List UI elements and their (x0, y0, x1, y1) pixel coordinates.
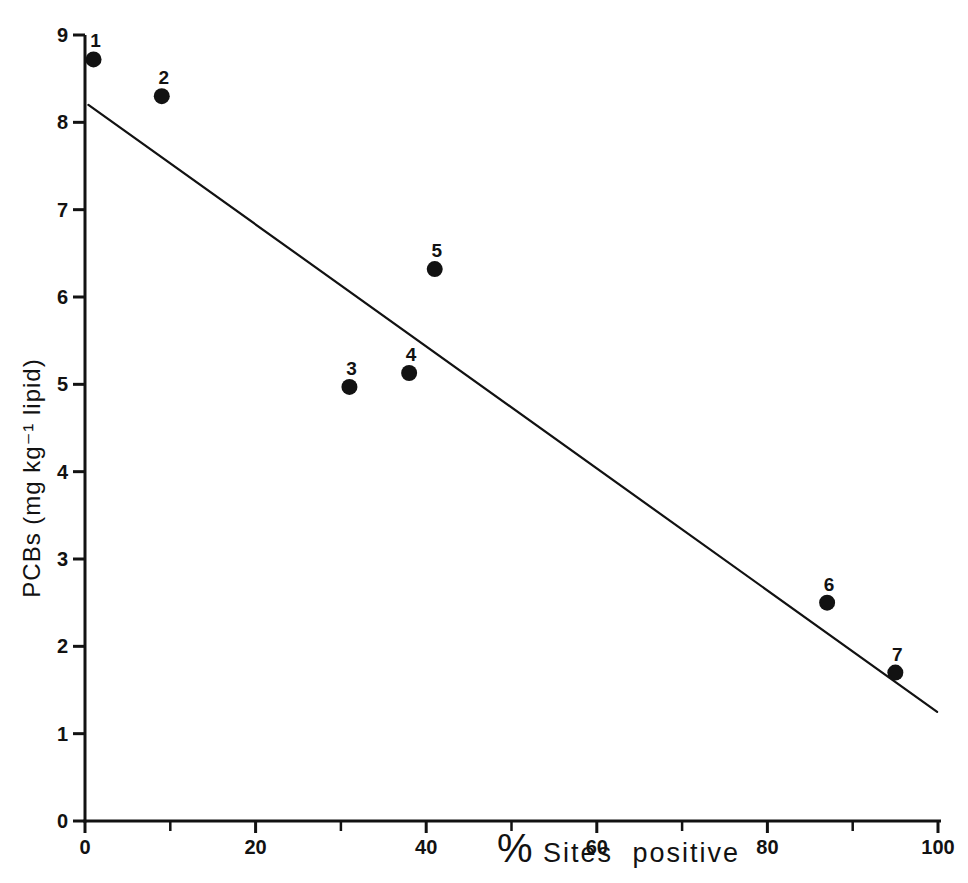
regression-line (88, 105, 937, 712)
point-label-3: 3 (346, 358, 357, 379)
scatter-plot: 0123456789020406080100 1234567 PCBs (mg … (0, 0, 968, 883)
point-label-5: 5 (431, 240, 442, 261)
regression-line-group (88, 105, 937, 712)
x-tick-label: 0 (79, 836, 90, 858)
point-label-1: 1 (90, 30, 101, 51)
point-label-4: 4 (406, 344, 417, 365)
y-tick-label: 9 (57, 24, 68, 46)
x-tick-label: 40 (415, 836, 437, 858)
x-axis-label-words: Sites positive (543, 838, 740, 868)
y-tick-label: 0 (57, 810, 68, 832)
data-point-1 (86, 51, 102, 67)
y-tick-label: 6 (57, 286, 68, 308)
y-tick-label: 8 (57, 111, 68, 133)
data-point-4 (401, 365, 417, 381)
y-tick-label: 1 (57, 723, 68, 745)
point-label-2: 2 (158, 67, 169, 88)
x-tick-label: 80 (756, 836, 778, 858)
point-label-6: 6 (824, 574, 835, 595)
data-point-6 (819, 595, 835, 611)
x-axis-label: % Sites positive (497, 826, 740, 870)
y-tick-label: 2 (57, 635, 68, 657)
data-point-3 (341, 379, 357, 395)
y-tick-label: 5 (57, 373, 68, 395)
data-point-7 (887, 665, 903, 681)
y-axis-label: PCBs (mg kg⁻¹ lipid) (18, 358, 45, 597)
scatter-plot-figure: 0123456789020406080100 1234567 PCBs (mg … (0, 0, 968, 883)
y-tick-label: 4 (57, 461, 69, 483)
point-label-7: 7 (892, 644, 903, 665)
x-tick-label: 100 (921, 836, 954, 858)
x-tick-label: 20 (244, 836, 266, 858)
y-tick-label: 7 (57, 199, 68, 221)
data-points: 1234567 (86, 30, 904, 680)
data-point-2 (154, 88, 170, 104)
percent-symbol: % (497, 826, 533, 870)
data-point-5 (427, 261, 443, 277)
y-tick-label: 3 (57, 548, 68, 570)
axes: 0123456789020406080100 (57, 24, 955, 858)
